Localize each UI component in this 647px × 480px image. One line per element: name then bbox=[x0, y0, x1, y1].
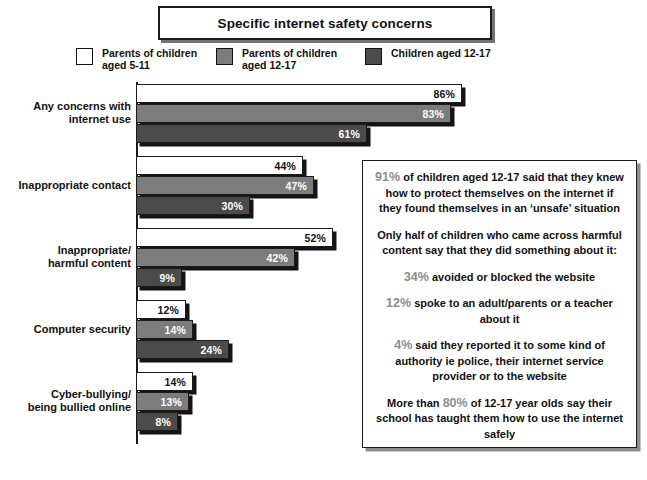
annotation-paragraph: 34% avoided or blocked the website bbox=[374, 270, 625, 286]
bar-value-label: 24% bbox=[200, 344, 228, 356]
bar-series3: 24% bbox=[136, 340, 229, 359]
annotation-stat: 80% bbox=[443, 396, 468, 410]
bar-value-label: 86% bbox=[433, 88, 461, 100]
bar-value-label: 83% bbox=[422, 108, 450, 120]
bar-series2: 83% bbox=[136, 104, 451, 123]
bar-series2: 13% bbox=[136, 392, 189, 411]
annotation-paragraph: 4% said they reported it to some kind of… bbox=[374, 338, 625, 385]
bar-series2: 47% bbox=[136, 176, 314, 195]
bar-value-label: 12% bbox=[157, 304, 185, 316]
category-label: Inappropriate contact bbox=[0, 179, 131, 192]
bar-value-label: 42% bbox=[266, 252, 294, 264]
bar-value-label: 52% bbox=[304, 232, 332, 244]
bar-series2: 42% bbox=[136, 248, 295, 267]
bar-value-label: 13% bbox=[160, 396, 188, 408]
category-label: Inappropriate/ harmful content bbox=[0, 244, 131, 270]
annotation-paragraph: 91% of children aged 12-17 said that the… bbox=[374, 170, 625, 217]
annotation-stat: 4% bbox=[394, 338, 412, 352]
bar-series1: 12% bbox=[136, 300, 186, 319]
bar-series3: 30% bbox=[136, 196, 250, 215]
bar-value-label: 30% bbox=[221, 200, 249, 212]
bar-series1: 86% bbox=[136, 84, 462, 103]
bar-series1: 44% bbox=[136, 156, 303, 175]
annotation-paragraph: More than 80% of 12-17 year olds say the… bbox=[374, 396, 625, 443]
bar-series3: 9% bbox=[136, 268, 182, 287]
category-label: Any concerns with internet use bbox=[0, 100, 131, 126]
bar-value-label: 61% bbox=[338, 128, 366, 140]
bar-series3: 61% bbox=[136, 124, 367, 143]
annotation-box: 91% of children aged 12-17 said that the… bbox=[362, 160, 637, 448]
bar-series3: 8% bbox=[136, 412, 178, 431]
annotation-paragraph: Only half of children who came across ha… bbox=[374, 228, 625, 259]
bar-value-label: 14% bbox=[164, 324, 192, 336]
annotation-prefix: More than bbox=[387, 397, 443, 409]
bar-value-label: 14% bbox=[164, 376, 192, 388]
annotation-text: said they reported it to some kind of au… bbox=[395, 339, 605, 382]
bar-series2: 14% bbox=[136, 320, 193, 339]
annotation-stat: 34% bbox=[404, 270, 429, 284]
bar-series1: 14% bbox=[136, 372, 193, 391]
annotation-text: of children aged 12-17 said that they kn… bbox=[379, 171, 624, 214]
bar-value-label: 47% bbox=[285, 180, 313, 192]
bar-series1: 52% bbox=[136, 228, 333, 247]
annotation-text: spoke to an adult/parents or a teacher a… bbox=[411, 297, 613, 325]
bar-value-label: 9% bbox=[159, 272, 181, 284]
chart-page: Specific internet safety concerns Parent… bbox=[0, 0, 647, 480]
bar-value-label: 8% bbox=[155, 416, 177, 428]
annotation-text: avoided or blocked the website bbox=[429, 271, 595, 283]
annotation-text: Only half of children who came across ha… bbox=[377, 229, 622, 257]
annotation-stat: 91% bbox=[375, 170, 400, 184]
category-label: Cyber-bullying/ being bullied online bbox=[0, 388, 131, 414]
annotation-paragraph: 12% spoke to an adult/parents or a teach… bbox=[374, 296, 625, 327]
annotation-stat: 12% bbox=[386, 296, 411, 310]
bar-value-label: 44% bbox=[274, 160, 302, 172]
category-label: Computer security bbox=[0, 323, 131, 336]
